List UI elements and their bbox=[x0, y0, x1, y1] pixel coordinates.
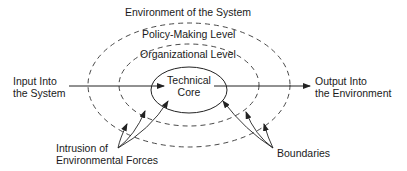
policy-making-level-label: Policy-Making Level bbox=[142, 28, 235, 41]
intrusion-label-2: Environmental Forces bbox=[56, 154, 158, 167]
technical-core-label-2: Core bbox=[160, 86, 218, 99]
boundaries-label: Boundaries bbox=[277, 147, 330, 160]
intrusion-arrows bbox=[118, 101, 168, 148]
organizational-level-label: Organizational Level bbox=[140, 48, 236, 61]
output-label-2: the Environment bbox=[315, 87, 391, 100]
environment-title: Environment of the System bbox=[125, 6, 251, 19]
boundaries-arrows bbox=[223, 101, 273, 148]
input-label-2: the System bbox=[13, 87, 66, 100]
